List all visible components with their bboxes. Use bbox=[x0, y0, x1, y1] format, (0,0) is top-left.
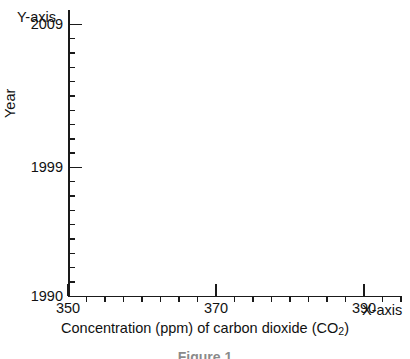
y-major-tick bbox=[68, 24, 82, 25]
x-axis-title-tail: ) bbox=[344, 320, 349, 336]
y-axis-title: Year bbox=[2, 89, 18, 118]
y-minor-tick bbox=[68, 238, 75, 239]
y-minor-tick bbox=[68, 124, 75, 125]
x-minor-tick bbox=[178, 296, 179, 302]
y-minor-tick bbox=[68, 267, 75, 268]
x-minor-tick bbox=[326, 296, 327, 302]
x-axis-title: Concentration (ppm) of carbon dioxide (C… bbox=[0, 320, 410, 337]
y-tick-label: 2009 bbox=[31, 17, 63, 32]
y-minor-tick bbox=[68, 224, 75, 225]
x-tick-label: 370 bbox=[204, 301, 228, 316]
y-minor-tick bbox=[68, 253, 75, 254]
y-minor-tick bbox=[68, 95, 75, 96]
x-minor-tick bbox=[234, 296, 235, 302]
x-minor-tick bbox=[141, 296, 142, 302]
figure-caption: Figure 1 bbox=[0, 349, 410, 359]
x-major-tick bbox=[67, 284, 68, 296]
y-minor-tick bbox=[68, 81, 75, 82]
x-minor-tick bbox=[104, 296, 105, 302]
x-minor-tick bbox=[271, 296, 272, 302]
y-minor-tick bbox=[68, 195, 75, 196]
x-axis-title-main: Concentration (ppm) of carbon dioxide (C… bbox=[61, 320, 338, 336]
y-minor-tick bbox=[68, 281, 75, 282]
y-minor-tick bbox=[68, 138, 75, 139]
x-minor-tick bbox=[400, 296, 401, 302]
x-minor-tick bbox=[123, 296, 124, 302]
y-major-tick bbox=[68, 296, 82, 297]
y-minor-tick bbox=[68, 52, 75, 53]
x-tick-label: 350 bbox=[56, 301, 80, 316]
y-major-tick bbox=[68, 167, 82, 168]
y-minor-tick bbox=[68, 181, 75, 182]
plot-area bbox=[70, 10, 401, 296]
y-minor-tick bbox=[68, 67, 75, 68]
x-minor-tick bbox=[252, 296, 253, 302]
x-minor-tick bbox=[86, 296, 87, 302]
y-minor-tick bbox=[68, 152, 75, 153]
x-major-tick bbox=[363, 284, 364, 296]
y-minor-tick bbox=[68, 38, 75, 39]
y-minor-tick bbox=[68, 210, 75, 211]
x-minor-tick bbox=[289, 296, 290, 302]
x-major-tick bbox=[215, 284, 216, 296]
x-minor-tick bbox=[308, 296, 309, 302]
figure-root: Y-axis X-axis Year Concentration (ppm) o… bbox=[0, 0, 410, 359]
x-minor-tick bbox=[382, 296, 383, 302]
x-tick-label: 390 bbox=[352, 301, 376, 316]
x-minor-tick bbox=[197, 296, 198, 302]
x-minor-tick bbox=[345, 296, 346, 302]
y-minor-tick bbox=[68, 110, 75, 111]
x-minor-tick bbox=[160, 296, 161, 302]
y-tick-label: 1999 bbox=[31, 160, 63, 175]
